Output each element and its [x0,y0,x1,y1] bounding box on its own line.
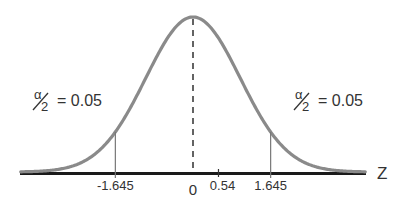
left-tail-value: = 0.05 [57,92,102,109]
left-critical-value-label: -1.645 [97,178,134,193]
normal-distribution-diagram: -1.645 0 0.54 1.645 Z α 2 = 0.05 α 2 = 0… [0,0,406,210]
mean-zero-label: 0 [189,181,197,198]
axis-label-z: Z [377,164,387,183]
right-tail-value: = 0.05 [318,92,363,109]
alpha-denominator: 2 [41,99,48,114]
right-critical-value-label: 1.645 [254,178,287,193]
test-statistic-label: 0.54 [210,178,235,193]
alpha-denominator: 2 [302,99,309,114]
left-tail-annotation: α 2 = 0.05 [33,87,102,114]
right-tail-annotation: α 2 = 0.05 [294,87,363,114]
